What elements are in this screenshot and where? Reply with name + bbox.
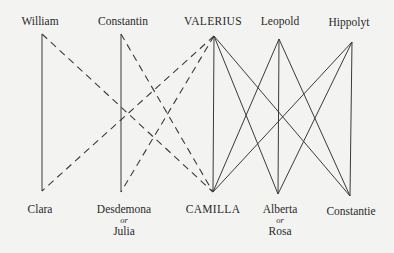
edge-valerius-camilla <box>213 36 214 192</box>
label-camilla: CAMILLA <box>186 203 241 216</box>
label-hippolyt: Hippolyt <box>329 16 370 29</box>
label-constantin: Constantin <box>98 15 148 28</box>
edge-hippolyt-alberta <box>278 42 352 194</box>
label-desdemona-or-julia: Desdemona or Julia <box>97 203 151 238</box>
label-william: William <box>21 15 58 28</box>
edge-constantin-camilla <box>121 34 213 192</box>
label-text: CAMILLA <box>186 203 241 215</box>
label-leopold: Leopold <box>261 15 299 28</box>
label-text: Constantie <box>326 205 375 217</box>
edge-valerius-clara <box>42 36 214 191</box>
label-text: Clara <box>28 203 53 215</box>
label-text: Hippolyt <box>329 16 370 28</box>
label-or: or <box>263 216 297 225</box>
label-clara: Clara <box>28 203 53 216</box>
label-constantie: Constantie <box>326 205 375 218</box>
edge-leopold-alberta <box>278 39 279 194</box>
edge-valerius-constantie <box>214 36 350 196</box>
edge-leopold-camilla <box>213 39 279 192</box>
label-text: Leopold <box>261 15 299 27</box>
edge-hippolyt-camilla <box>213 42 352 192</box>
edge-valerius-desdemona <box>121 36 214 192</box>
edge-hippolyt-constantie <box>350 42 352 196</box>
label-alt: Rosa <box>263 225 297 238</box>
label-valerius: VALERIUS <box>184 15 242 28</box>
edge-leopold-constantie <box>279 39 350 196</box>
label-alberta-or-rosa: Alberta or Rosa <box>263 203 297 238</box>
label-text: VALERIUS <box>184 15 242 27</box>
label-or: or <box>97 216 151 225</box>
label-text: Constantin <box>98 15 148 27</box>
label-text: William <box>21 15 58 27</box>
label-alt: Julia <box>97 225 151 238</box>
